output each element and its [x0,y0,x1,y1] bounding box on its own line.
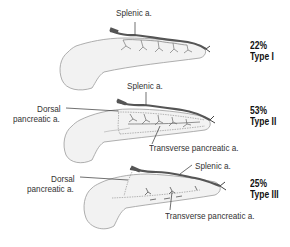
label-transverse-pancreatic-2: Transverse pancreatic a. [149,143,239,153]
percent-type-2: 53% [250,105,267,116]
label-dorsal-pancreatic-2-line2: pancreatic a. [13,114,60,124]
type-label-3: Type III [250,189,279,200]
label-transverse-pancreatic-3: Transverse pancreatic a. [165,211,255,221]
percent-type-1: 22% [250,40,267,51]
percent-type-3: 25% [250,178,267,189]
label-splenic-artery-2: Splenic a. [127,81,163,91]
type-label-2: Type II [250,116,276,127]
label-splenic-artery-1: Splenic a. [116,8,152,18]
label-dorsal-pancreatic-3-line2: pancreatic a. [27,184,74,194]
label-splenic-artery-3: Splenic a. [195,161,231,171]
type-label-1: Type I [250,51,274,62]
